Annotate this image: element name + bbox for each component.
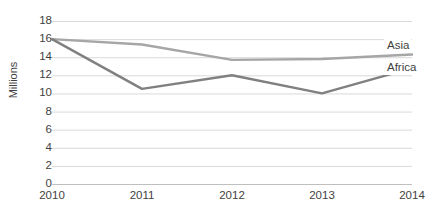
x-axis-tick-label: 2011 [112,190,172,202]
x-axis-tick-label: 2014 [382,190,430,202]
series-label-africa: Africa [384,61,418,75]
series-label-asia: Asia [384,39,411,53]
x-axis-tick-label: 2012 [202,190,262,202]
x-axis-tick-label: 2013 [292,190,352,202]
x-axis-tick-label: 2010 [22,190,82,202]
